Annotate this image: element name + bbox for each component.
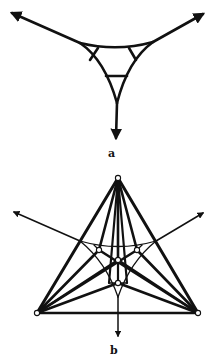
edge-right-fan-3 [99, 250, 198, 313]
arrow-right-icon [153, 14, 203, 42]
vertex-top [115, 175, 120, 180]
arrow-down-icon [116, 103, 117, 138]
edge-left-arc [80, 43, 117, 103]
panel-b-graph [14, 175, 203, 336]
arrow-right-icon [156, 213, 203, 241]
vertex-right [195, 310, 200, 315]
arrow-left-icon [14, 212, 80, 241]
node-inner-center [115, 257, 120, 262]
vertex-left [34, 310, 39, 315]
node-inner-right [134, 247, 139, 252]
edge-strut-right [129, 48, 136, 60]
panel-b-label: b [110, 344, 118, 357]
panel-a-graph [12, 13, 203, 138]
diagram-canvas: a b [0, 0, 214, 362]
edge-top-arc [80, 42, 153, 47]
edge-right-arc [117, 42, 153, 103]
edge-left-fan-3 [37, 250, 137, 313]
panel-a-label: a [108, 147, 115, 160]
node-inner-lower [115, 280, 120, 285]
arrow-left-icon [12, 13, 80, 43]
node-inner-left [96, 247, 101, 252]
